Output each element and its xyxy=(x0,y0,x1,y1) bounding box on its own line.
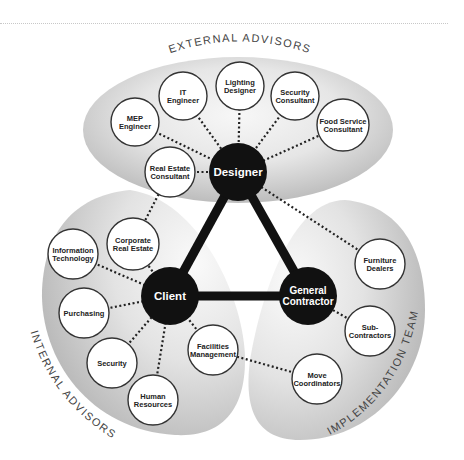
node-security: Security xyxy=(87,338,137,388)
node-purchasing: Purchasing xyxy=(59,288,109,338)
node-label-line: Consultant xyxy=(275,96,315,105)
node-label-line: Contractor xyxy=(282,296,333,307)
node-label-line: Purchasing xyxy=(64,309,105,318)
node-human-resources: HumanResources xyxy=(128,375,178,425)
node-label-line: Designer xyxy=(224,86,256,95)
node-label-line: Real Estate xyxy=(113,244,153,253)
node-lighting-designer: LightingDesigner xyxy=(216,62,264,110)
node-label-line: Security xyxy=(97,359,127,368)
node-real-estate-consultant: Real EstateConsultant xyxy=(145,147,195,197)
node-label-line: Dealers xyxy=(366,264,393,273)
node-label-line: Contractors xyxy=(349,331,392,340)
node-label-line: Designer xyxy=(213,166,263,178)
node-label-line: Engineer xyxy=(167,96,199,105)
core-node-client: Client xyxy=(141,267,199,325)
node-furniture-dealers: FurnitureDealers xyxy=(355,239,405,289)
node-sub-contractors: Sub-Contractors xyxy=(345,306,395,356)
external-advisors-label: EXTERNAL ADVISORS xyxy=(167,31,313,55)
node-security-consultant: SecurityConsultant xyxy=(271,72,319,120)
core-node-general-contractor: GeneralContractor xyxy=(279,267,337,325)
node-information-technology: InformationTechnology xyxy=(48,229,98,279)
core-node-designer: Designer xyxy=(209,143,267,201)
node-label-line: Resources xyxy=(134,400,172,409)
node-label-line: General xyxy=(289,285,326,296)
node-move-coordinators: MoveCoordinators xyxy=(292,354,342,404)
node-label-line: Consultant xyxy=(150,172,190,181)
node-facilities-management: FacilitiesManagement xyxy=(188,325,238,375)
node-label-line: Engineer xyxy=(119,122,151,131)
node-it-engineer: ITEngineer xyxy=(159,72,207,120)
node-label-line: Technology xyxy=(52,254,94,263)
node-corporate-real-estate: CorporateReal Estate xyxy=(107,218,159,270)
stakeholder-diagram: EXTERNAL ADVISORS INTERNAL ADVISORS IMPL… xyxy=(0,0,464,460)
node-label-line: Coordinators xyxy=(293,379,340,388)
node-food-service-consultant: Food ServiceConsultant xyxy=(317,99,369,151)
node-label-line: Consultant xyxy=(323,125,363,134)
node-mep-engineer: MEPEngineer xyxy=(111,98,159,146)
node-label-line: Client xyxy=(154,290,186,302)
node-label-line: Management xyxy=(190,350,236,359)
